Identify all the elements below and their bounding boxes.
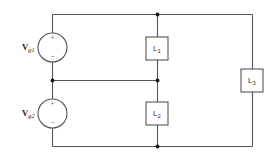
source-label-vg2: Vg2 [22,108,35,119]
voltage-source-vg1: + − Vg1 [22,33,67,62]
plus-sign: + [50,34,54,41]
junction-dot-icon [156,79,160,83]
wires [53,15,253,147]
voltage-source-vg2: + − Vg2 [22,99,67,128]
load-l3: L3 [241,69,263,92]
junction-dot-icon [51,79,55,83]
load-l2: L2 [146,102,168,125]
junction-dot-icon [156,13,160,17]
minus-sign: − [50,53,54,60]
plus-sign: + [50,100,54,107]
minus-sign: − [50,119,54,126]
label-sub: g2 [28,112,35,119]
junction-dot-icon [156,145,160,149]
source-label-vg1: Vg1 [22,42,35,53]
circuit-svg: + − Vg1 + − Vg2 L1 L2 L3 [0,0,275,163]
load-l1: L1 [146,37,168,60]
label-sub: g1 [28,46,35,53]
circuit-diagram: + − Vg1 + − Vg2 L1 L2 L3 [0,0,275,163]
